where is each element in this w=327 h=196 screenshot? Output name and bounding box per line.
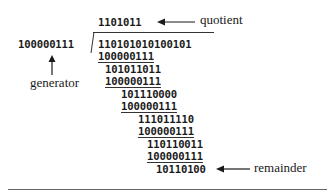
generator-label: generator	[30, 76, 79, 90]
step-subtract: 100000111	[147, 150, 203, 163]
dividend: 110101010100101	[98, 38, 191, 50]
bottom-divider	[8, 189, 327, 190]
step-subtract: 100000111	[98, 50, 154, 63]
step-subtract: 100000111	[105, 75, 161, 88]
remainder-label: remainder	[254, 161, 307, 175]
step-subtract: 100000111	[121, 100, 177, 113]
step-result: 101011011	[105, 63, 161, 75]
arrow-up-icon	[52, 55, 60, 77]
quotient-label: quotient	[200, 13, 243, 27]
generator-value: 100000111	[18, 38, 74, 50]
remainder-value: 10110100	[156, 163, 206, 175]
step-subtract: 100000111	[138, 125, 194, 138]
arrow-left-icon	[157, 22, 197, 30]
division-bar	[93, 32, 214, 33]
step-result: 110110011	[147, 138, 203, 150]
step-result: 111011110	[138, 113, 194, 125]
arrow-left-icon	[216, 169, 256, 177]
step-result: 101110000	[121, 88, 177, 100]
quotient-value: 1101011	[98, 16, 142, 28]
division-bracket	[91, 32, 95, 53]
